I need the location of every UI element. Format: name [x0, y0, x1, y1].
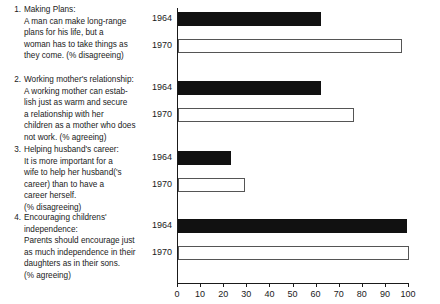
- bar-1-1964: [178, 12, 321, 26]
- year-label: 1970: [138, 109, 172, 120]
- bar-3-1970: [178, 178, 245, 192]
- x-axis-tick: [269, 283, 270, 287]
- question-line: plans for his life, but a: [24, 27, 172, 39]
- x-axis-tick-label: 30: [233, 289, 259, 300]
- plot-area: 0102030405060708090100: [177, 8, 408, 283]
- year-label: 1970: [138, 179, 172, 190]
- year-label: 1964: [138, 13, 172, 24]
- bar-2-1970: [178, 108, 354, 122]
- year-label: 1964: [138, 152, 172, 163]
- question-line: children as a mother who does: [24, 120, 172, 132]
- question-number: 2.: [8, 74, 24, 86]
- question-number: 3.: [8, 144, 24, 156]
- question-line: lish just as warm and secure: [24, 97, 172, 109]
- question-line: daughters as in their sons.: [24, 258, 172, 270]
- x-axis-tick-label: 20: [210, 289, 236, 300]
- year-label: 1964: [138, 82, 172, 93]
- question-line: wife to help her husband('s: [24, 167, 172, 179]
- x-axis-tick: [362, 283, 363, 287]
- x-axis-tick: [408, 283, 409, 287]
- bar-3-1964: [178, 151, 231, 165]
- question-line: Parents should encourage just: [24, 235, 172, 247]
- x-axis-tick: [223, 283, 224, 287]
- x-axis-tick: [293, 283, 294, 287]
- year-label: 1970: [138, 40, 172, 51]
- x-axis-tick-label: 100: [395, 289, 421, 300]
- question-line: they come. (% disagreeing): [24, 50, 172, 62]
- x-axis-tick: [385, 283, 386, 287]
- x-axis-tick: [339, 283, 340, 287]
- question-line: not work. (% agreeing): [24, 132, 172, 144]
- x-axis-tick-label: 10: [187, 289, 213, 300]
- bar-2-1964: [178, 81, 321, 95]
- x-axis-tick: [246, 283, 247, 287]
- x-axis-tick-label: 80: [349, 289, 375, 300]
- x-axis-tick-label: 90: [372, 289, 398, 300]
- x-axis-tick: [200, 283, 201, 287]
- x-axis-tick: [316, 283, 317, 287]
- question-line: career herself.: [24, 190, 172, 202]
- x-axis-tick-label: 40: [256, 289, 282, 300]
- x-axis-tick-label: 70: [326, 289, 352, 300]
- question-line: (% agreeing): [24, 270, 172, 282]
- question-number: 4.: [8, 212, 24, 224]
- x-axis-tick: [177, 283, 178, 287]
- question-number: 1.: [8, 4, 24, 16]
- survey-bar-chart: 1.Making Plans:A man can make long-range…: [0, 0, 440, 304]
- bar-1-1970: [178, 39, 402, 53]
- x-axis-tick-label: 60: [303, 289, 329, 300]
- bar-4-1964: [178, 219, 407, 233]
- year-label: 1970: [138, 247, 172, 258]
- x-axis-tick-label: 50: [280, 289, 306, 300]
- x-axis-tick-label: 0: [164, 289, 190, 300]
- bar-4-1970: [178, 246, 409, 260]
- year-label: 1964: [138, 220, 172, 231]
